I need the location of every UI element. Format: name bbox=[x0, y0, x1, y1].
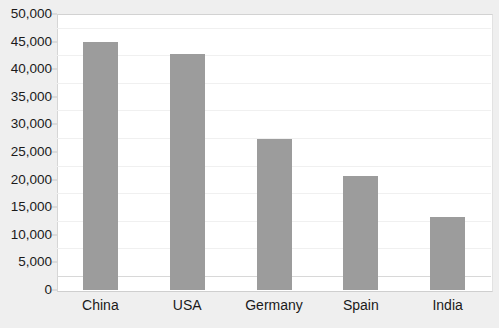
x-axis: ChinaUSAGermanySpainIndia bbox=[57, 294, 491, 320]
y-tick-mark bbox=[52, 69, 57, 70]
y-axis: 05,00010,00015,00020,00025,00030,00035,0… bbox=[0, 0, 52, 328]
y-tick-mark bbox=[52, 179, 57, 180]
y-tick-mark bbox=[52, 290, 57, 291]
y-tick-label: 15,000 bbox=[0, 200, 52, 214]
x-tick-label-spain: Spain bbox=[343, 294, 379, 316]
gridline bbox=[57, 83, 491, 84]
x-tick-label-india: India bbox=[432, 294, 462, 316]
y-tick-mark bbox=[52, 234, 57, 235]
bar-chart: 05,00010,00015,00020,00025,00030,00035,0… bbox=[0, 0, 499, 328]
bar-usa[interactable] bbox=[170, 54, 205, 290]
y-tick-label: 50,000 bbox=[0, 7, 52, 21]
y-tick-mark bbox=[52, 96, 57, 97]
gridline bbox=[57, 55, 491, 56]
x-tick-label-usa: USA bbox=[173, 294, 202, 316]
bar-india[interactable] bbox=[430, 217, 465, 290]
y-tick-label: 45,000 bbox=[0, 35, 52, 49]
y-tick-mark bbox=[52, 262, 57, 263]
y-tick-label: 0 bbox=[0, 283, 52, 297]
y-tick-mark bbox=[52, 14, 57, 15]
y-tick-label: 35,000 bbox=[0, 90, 52, 104]
bar-germany[interactable] bbox=[257, 139, 292, 290]
gridline bbox=[57, 110, 491, 111]
y-tick-label: 10,000 bbox=[0, 228, 52, 242]
y-tick-label: 30,000 bbox=[0, 118, 52, 132]
x-tick-label-germany: Germany bbox=[245, 294, 303, 316]
y-tick-label: 20,000 bbox=[0, 173, 52, 187]
y-tick-mark bbox=[52, 41, 57, 42]
y-tick-label: 40,000 bbox=[0, 62, 52, 76]
y-tick-label: 25,000 bbox=[0, 145, 52, 159]
y-tick-mark bbox=[52, 207, 57, 208]
gridline bbox=[57, 28, 491, 29]
y-tick-label: 5,000 bbox=[0, 256, 52, 270]
y-tick-mark bbox=[52, 152, 57, 153]
x-tick-label-china: China bbox=[82, 294, 119, 316]
y-tick-mark bbox=[52, 124, 57, 125]
bar-spain[interactable] bbox=[343, 176, 378, 290]
bar-china[interactable] bbox=[83, 42, 118, 290]
